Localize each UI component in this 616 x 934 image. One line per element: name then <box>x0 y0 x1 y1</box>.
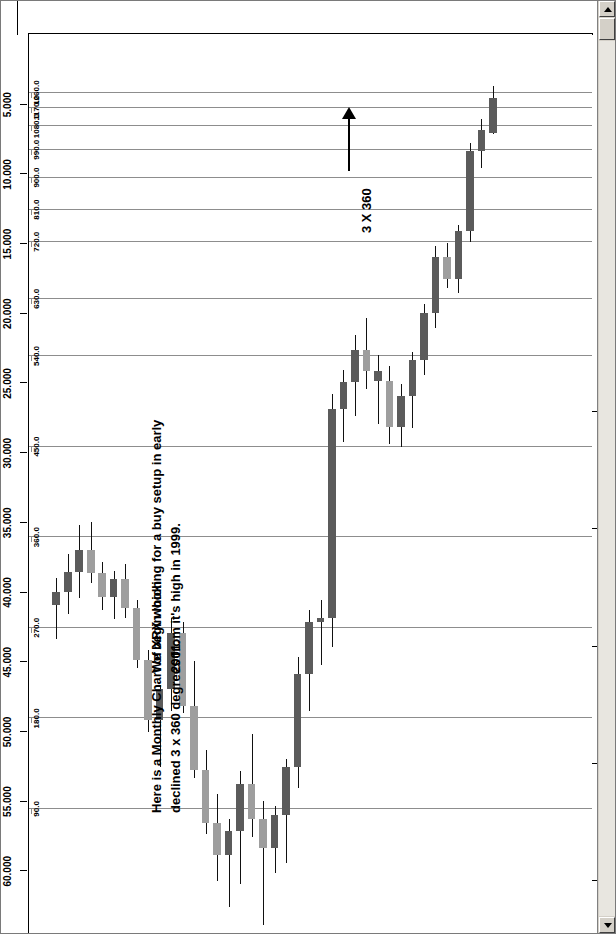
candle-wick <box>378 355 379 425</box>
scrollbar-trough[interactable] <box>599 41 615 916</box>
gann-ray-label: 990.0 <box>32 140 41 160</box>
rotated-chart-canvas: (XRX) XEROX CORP-Monthly 12/29/2000 C=4.… <box>0 0 616 934</box>
candle-body <box>133 608 141 660</box>
gann-ray <box>29 298 592 299</box>
candle-wick <box>56 578 57 639</box>
price-tick-label: 5.000 <box>2 92 13 117</box>
price-tick <box>20 731 27 732</box>
gann-ray-label: 360.0 <box>32 527 41 547</box>
scroll-down-arrow-icon <box>604 923 612 928</box>
price-tick <box>20 243 27 244</box>
candle-body <box>443 257 451 279</box>
gann-ray-label: 810.0 <box>32 200 41 220</box>
gann-ray-tick <box>31 809 32 814</box>
candle-body <box>351 350 359 382</box>
candle-body <box>386 381 394 427</box>
price-tick-label: 10.000 <box>2 159 13 190</box>
candle-body <box>420 313 428 360</box>
anno-buy-setup: We begin looking for a buy setup in earl… <box>147 420 185 673</box>
candle-body <box>305 622 313 674</box>
candle-body <box>489 98 497 133</box>
chart-application-window: (XRX) XEROX CORP-Monthly 12/29/2000 C=4.… <box>0 0 616 934</box>
candle-body <box>236 784 244 831</box>
gann-ray <box>29 107 592 108</box>
candle-body <box>397 396 405 427</box>
candle-body <box>409 360 417 396</box>
candle-body <box>248 784 256 819</box>
price-tick-label: 30.000 <box>2 438 13 469</box>
gann-ray-tick <box>31 126 32 131</box>
gann-ray-tick <box>31 150 32 155</box>
gann-ray-label: 1260.0 <box>32 80 41 104</box>
price-axis: 60.00055.00050.00045.00040.00035.00030.0… <box>0 35 28 934</box>
gann-ray-tick <box>31 93 32 98</box>
scrollbar-thumb[interactable] <box>599 18 615 40</box>
candle-body <box>259 819 267 848</box>
price-tick <box>20 661 27 662</box>
candle-body <box>75 550 83 572</box>
gann-ray-tick <box>31 447 32 452</box>
price-tick-label: 20.000 <box>2 298 13 329</box>
candle-body <box>374 371 382 381</box>
candle-body <box>466 151 474 230</box>
price-tick <box>20 173 27 174</box>
price-tick-label: 15.000 <box>2 229 13 260</box>
gann-ray-tick <box>31 242 32 247</box>
candle-body <box>87 550 95 574</box>
price-tick-label: 40.000 <box>2 577 13 608</box>
gann-ray <box>29 125 592 126</box>
gann-ray-label: 450.0 <box>32 437 41 457</box>
candle-body <box>110 579 118 597</box>
price-tick <box>20 313 27 314</box>
gann-ray-tick <box>31 537 32 542</box>
anno-three-by-360: 3 X 360 <box>359 188 374 233</box>
candle-body <box>121 579 129 608</box>
gann-ray-label: 630.0 <box>32 289 41 309</box>
gann-ray-label: 180.0 <box>32 708 41 728</box>
gann-ray <box>29 149 592 150</box>
candle-body <box>225 831 233 855</box>
scroll-down-button[interactable] <box>599 917 615 933</box>
gann-ray-label: 900.0 <box>32 168 41 188</box>
gann-ray-tick <box>31 178 32 183</box>
gann-ray-tick <box>31 356 32 361</box>
candle-body <box>363 350 371 371</box>
gann-ray-label: 540.0 <box>32 346 41 366</box>
candle-body <box>317 618 325 622</box>
scroll-up-button[interactable] <box>599 1 615 17</box>
gann-ray <box>29 209 592 210</box>
gann-ray-label: 270.0 <box>32 618 41 638</box>
price-tick <box>20 870 27 871</box>
gann-ray <box>29 536 592 537</box>
price-tick-label: 35.000 <box>2 508 13 539</box>
candle-body <box>64 572 72 592</box>
candle-wick <box>321 600 322 666</box>
plot-area[interactable]: 90.0180.0270.0360.0450.0540.0630.0720.08… <box>28 33 593 934</box>
gann-ray-label: 90.0 <box>32 801 41 817</box>
vertical-scrollbar[interactable] <box>597 0 616 934</box>
gann-ray-tick <box>31 299 32 304</box>
gann-ray <box>29 446 592 447</box>
price-tick-label: 25.000 <box>2 368 13 399</box>
gann-ray <box>29 177 592 178</box>
price-tick-label: 55.000 <box>2 786 13 817</box>
price-tick <box>20 104 27 105</box>
gann-ray <box>29 717 592 718</box>
candle-body <box>271 815 279 848</box>
price-tick <box>20 801 27 802</box>
gann-ray-tick <box>31 718 32 723</box>
candle-body <box>98 573 106 597</box>
price-tick-label: 50.000 <box>2 717 13 748</box>
gann-ray <box>29 92 592 93</box>
annotation-arrow <box>329 103 369 173</box>
candle-body <box>294 674 302 767</box>
gann-ray-label: 720.0 <box>32 232 41 252</box>
gann-ray <box>29 355 592 356</box>
candle-body <box>340 382 348 408</box>
candle-body <box>190 706 198 770</box>
gann-ray-tick <box>31 108 32 113</box>
gann-ray <box>29 241 592 242</box>
gann-ray <box>29 808 592 809</box>
scroll-up-arrow-icon <box>604 7 612 12</box>
candle-body <box>455 231 463 280</box>
